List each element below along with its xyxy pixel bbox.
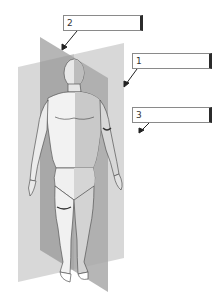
- label-number-3: 3: [136, 109, 142, 121]
- arrow-1-head: [124, 81, 129, 87]
- label-number-2: 2: [67, 17, 73, 29]
- label-input-1[interactable]: [145, 55, 207, 67]
- arrow-2-head: [62, 44, 67, 50]
- label-number-1: 1: [136, 55, 142, 67]
- arrow-1: [126, 69, 137, 84]
- label-input-3[interactable]: [145, 109, 207, 121]
- label-box-1[interactable]: 1: [132, 53, 212, 69]
- label-box-3[interactable]: 3: [132, 107, 212, 123]
- anatomy-diagram: [0, 0, 219, 303]
- label-box-2[interactable]: 2: [63, 15, 143, 31]
- label-input-2[interactable]: [76, 17, 138, 29]
